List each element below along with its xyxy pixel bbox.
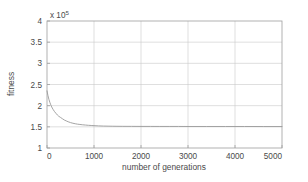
x-tick-label: 4000	[226, 152, 245, 161]
y-tick-label: 2.5	[31, 81, 43, 90]
fitness-convergence-chart: 11.522.533.54 010002000300040005000 x 10…	[0, 0, 308, 182]
figure-container: 11.522.533.54 010002000300040005000 x 10…	[0, 0, 308, 182]
y-tick-label: 1	[37, 144, 42, 153]
y-tick-label: 3	[37, 59, 42, 68]
x-tick-label: 3000	[179, 152, 198, 161]
y-tick-label: 4	[37, 17, 42, 26]
x-tick-label: 1000	[85, 152, 104, 161]
x-tick-label: 2000	[132, 152, 151, 161]
y-tick-label: 1.5	[31, 123, 43, 132]
y-tick-label: 2	[37, 102, 42, 111]
x-tick-label: 5000	[264, 152, 283, 161]
y-axis-title: fitness	[6, 72, 16, 96]
x-tick-label: 0	[47, 152, 52, 161]
x-axis-title: number of generations	[122, 162, 206, 172]
y-tick-label: 3.5	[31, 38, 43, 47]
